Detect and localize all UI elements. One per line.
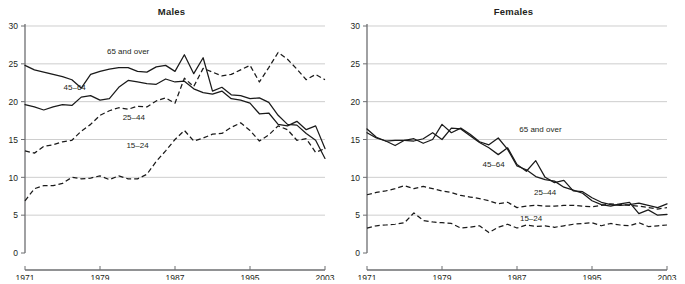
series-annotation-65-and-over: 65 and over [519, 125, 562, 134]
x-axis-label-1995: 1995 [583, 273, 602, 280]
chart-panel-females: Females 05101520253019711979198719952003… [342, 0, 685, 284]
series-line-15-24 [25, 123, 325, 201]
x-axis-label-1979: 1979 [91, 273, 110, 280]
figure-container: Males 0510152025301971197919871995200365… [0, 0, 685, 284]
y-axis-label-20: 20 [351, 97, 361, 107]
y-axis-label-15: 15 [9, 135, 19, 145]
y-axis-label-5: 5 [13, 210, 18, 220]
x-axis-label-1987: 1987 [508, 273, 527, 280]
y-axis-label-25: 25 [9, 59, 19, 69]
series-annotation-15-24: 15–24 [126, 141, 149, 150]
x-axis-label-1987: 1987 [166, 273, 185, 280]
x-axis-label-2003: 2003 [316, 273, 335, 280]
x-axis-label-1995: 1995 [241, 273, 260, 280]
series-annotation-25-44: 25–44 [123, 113, 146, 122]
y-axis-label-25: 25 [351, 59, 361, 69]
plot-area-males: 0510152025301971197919871995200365 and o… [0, 18, 343, 280]
chart-title-females: Females [342, 6, 685, 17]
plot-area-females: 0510152025301971197919871995200365 and o… [342, 18, 685, 280]
x-axis-label-2003: 2003 [658, 273, 677, 280]
series-line-65-and-over [367, 128, 667, 207]
chart-panel-males: Males 0510152025301971197919871995200365… [0, 0, 343, 284]
series-annotation-25-44: 25–44 [534, 188, 557, 197]
series-line-15-24 [367, 213, 667, 233]
plot-svg-females: 0510152025301971197919871995200365 and o… [342, 18, 685, 280]
y-axis-label-15: 15 [351, 135, 361, 145]
y-axis-label-30: 30 [351, 21, 361, 31]
y-axis-label-5: 5 [355, 210, 360, 220]
series-line-45-64 [367, 124, 667, 215]
y-axis-label-10: 10 [351, 173, 361, 183]
y-axis-label-0: 0 [355, 248, 360, 258]
y-axis-label-0: 0 [13, 248, 18, 258]
plot-svg-males: 0510152025301971197919871995200365 and o… [0, 18, 343, 280]
series-annotation-45-64: 45–64 [482, 160, 505, 169]
y-axis-label-20: 20 [9, 97, 19, 107]
chart-title-males: Males [0, 6, 343, 17]
y-axis-label-30: 30 [9, 21, 19, 31]
x-axis-label-1979: 1979 [433, 273, 452, 280]
series-annotation-65-and-over: 65 and over [107, 47, 150, 56]
series-line-25-44 [25, 52, 325, 153]
x-axis-label-1971: 1971 [358, 273, 377, 280]
series-annotation-15-24: 15–24 [520, 214, 543, 223]
y-axis-label-10: 10 [9, 173, 19, 183]
x-axis-label-1971: 1971 [16, 273, 35, 280]
series-annotation-45-64: 45–64 [64, 83, 87, 92]
series-line-65-and-over [25, 55, 325, 159]
